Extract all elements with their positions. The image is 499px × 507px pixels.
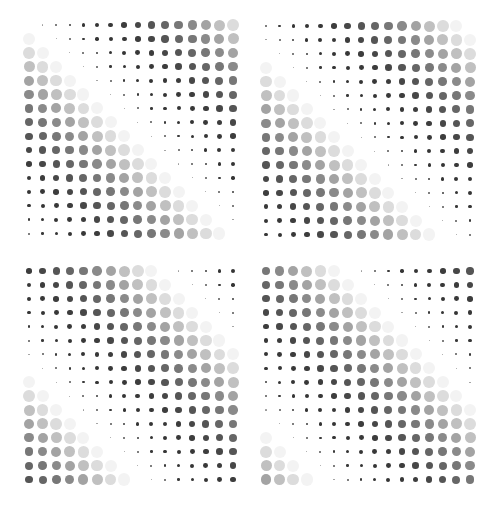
dot xyxy=(467,162,473,168)
dot xyxy=(110,437,111,438)
dot xyxy=(263,176,270,183)
dot xyxy=(318,24,323,29)
dot xyxy=(175,63,182,70)
dot xyxy=(93,202,100,209)
dot xyxy=(205,270,208,273)
dot xyxy=(78,103,90,115)
dot xyxy=(438,77,447,86)
dot xyxy=(358,22,365,29)
dot xyxy=(401,284,404,287)
dot xyxy=(412,78,419,85)
dot xyxy=(174,350,183,359)
dot xyxy=(120,323,128,331)
dot xyxy=(468,325,472,329)
dot xyxy=(25,462,33,470)
dot xyxy=(38,118,47,127)
dot xyxy=(342,145,354,157)
dot xyxy=(188,378,197,387)
dot xyxy=(397,21,406,30)
dot xyxy=(315,146,326,157)
dot xyxy=(442,354,443,355)
dot xyxy=(94,338,100,344)
dot xyxy=(148,365,155,372)
dot xyxy=(123,94,125,96)
dot xyxy=(440,134,446,140)
dot xyxy=(175,49,182,56)
dot xyxy=(426,106,433,113)
dot xyxy=(78,117,89,128)
dot xyxy=(94,323,101,330)
dot xyxy=(425,63,434,72)
dot xyxy=(191,163,193,165)
dot xyxy=(356,187,367,198)
dot xyxy=(146,293,157,304)
dot xyxy=(290,352,296,358)
dot xyxy=(118,130,130,142)
dot xyxy=(159,172,171,184)
dot xyxy=(410,362,422,374)
dot xyxy=(411,49,420,58)
dot xyxy=(411,35,420,44)
dot xyxy=(81,324,87,330)
dot xyxy=(41,204,45,208)
dot xyxy=(146,308,156,318)
dot xyxy=(317,351,324,358)
dot xyxy=(263,190,269,196)
dot xyxy=(132,265,144,277)
dot xyxy=(110,423,112,425)
dot xyxy=(37,61,49,73)
dot xyxy=(147,322,156,331)
dot xyxy=(329,188,338,197)
dot xyxy=(118,473,130,485)
dot xyxy=(175,392,182,399)
dot xyxy=(229,76,238,85)
dot xyxy=(455,339,458,342)
dot xyxy=(356,202,366,212)
dot xyxy=(149,393,155,399)
dot xyxy=(357,364,366,373)
dot xyxy=(39,476,47,484)
dot xyxy=(82,381,85,384)
dot xyxy=(320,95,321,96)
dot xyxy=(51,103,61,113)
dot xyxy=(397,391,406,400)
dot xyxy=(360,478,363,481)
dot xyxy=(372,449,377,454)
dot xyxy=(69,396,70,397)
dot xyxy=(287,460,299,472)
dot xyxy=(52,132,61,141)
dot xyxy=(372,65,378,71)
dot xyxy=(218,191,220,193)
dot xyxy=(54,218,58,222)
dot xyxy=(67,324,72,329)
dot xyxy=(106,266,116,276)
dot xyxy=(83,409,84,410)
dot xyxy=(279,53,280,54)
dot xyxy=(147,336,156,345)
dot xyxy=(347,123,348,124)
dot xyxy=(289,161,298,170)
dot xyxy=(205,191,206,192)
dot xyxy=(119,266,130,277)
dot xyxy=(175,378,183,386)
dot xyxy=(120,201,129,210)
dot xyxy=(107,309,115,317)
dot xyxy=(37,47,49,59)
dot xyxy=(315,294,325,304)
dot xyxy=(120,187,129,196)
dot xyxy=(136,65,140,69)
dot xyxy=(229,105,236,112)
dot xyxy=(413,477,419,483)
dot xyxy=(175,35,183,43)
dot xyxy=(54,203,59,208)
dot xyxy=(467,296,473,302)
dot xyxy=(231,162,235,166)
dot xyxy=(316,322,325,331)
dot xyxy=(332,66,335,69)
dot xyxy=(96,409,98,411)
dot xyxy=(78,131,88,141)
dot xyxy=(387,122,390,125)
dot xyxy=(361,270,362,271)
dot xyxy=(440,120,447,127)
dot xyxy=(176,435,181,440)
